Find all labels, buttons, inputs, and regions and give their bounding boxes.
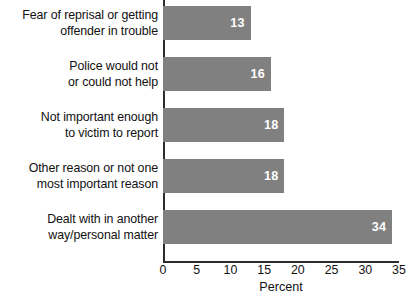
x-tick-label: 20 — [291, 263, 305, 277]
category-label: Dealt with in another way/personal matte… — [0, 212, 158, 243]
x-tick-label: 25 — [325, 263, 339, 277]
x-axis-ticks: 05101520253035 — [163, 263, 413, 281]
category-label: Police would not or could not help — [0, 59, 158, 90]
bar-value-label: 18 — [264, 118, 278, 132]
category-label: Fear of reprisal or getting offender in … — [0, 8, 158, 39]
bar: 13 — [163, 6, 251, 40]
x-tick-label: 10 — [224, 263, 238, 277]
bar-value-label: 13 — [230, 16, 244, 30]
x-tick-label: 5 — [193, 263, 200, 277]
category-label: Not important enough to victim to report — [0, 110, 158, 141]
x-axis-title: Percent — [163, 280, 399, 294]
bar-value-label: 16 — [250, 67, 264, 81]
x-tick-label: 0 — [160, 263, 167, 277]
bar: 18 — [163, 159, 284, 193]
category-label: Other reason or not one most important r… — [0, 161, 158, 192]
x-tick-label: 15 — [257, 263, 271, 277]
category-labels: Fear of reprisal or getting offender in … — [0, 0, 158, 262]
bar-chart: Fear of reprisal or getting offender in … — [0, 0, 413, 301]
bar-value-label: 18 — [264, 169, 278, 183]
bar-value-label: 34 — [372, 220, 386, 234]
x-tick-label: 35 — [392, 263, 406, 277]
bar: 16 — [163, 57, 271, 91]
bar: 34 — [163, 210, 392, 244]
bar: 18 — [163, 108, 284, 142]
plot-area: 13 16 18 18 34 — [163, 0, 413, 262]
x-tick-label: 30 — [358, 263, 372, 277]
